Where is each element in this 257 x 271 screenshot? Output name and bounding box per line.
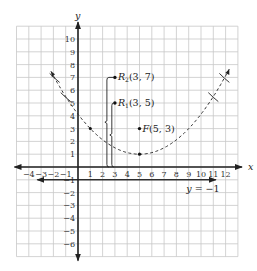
x-tick-label: 6	[149, 170, 154, 179]
y-tick-label: 1	[70, 150, 75, 159]
y-tick-label: −3	[63, 201, 75, 210]
x-tick-label: −2	[48, 170, 60, 179]
y-tick-label: 3	[70, 125, 75, 134]
x-tick-label: 3	[112, 170, 117, 179]
compass-arc-mark	[219, 73, 229, 82]
r2-label: R2(3, 7)	[117, 71, 155, 83]
y-tick-label: −2	[63, 189, 75, 198]
x-tick-label: −4	[23, 170, 35, 179]
directrix-text: y = −1	[185, 183, 219, 194]
r1-distance-brace	[110, 103, 114, 167]
f-point	[138, 127, 141, 130]
y-tick-label: −5	[63, 227, 75, 236]
x-tick-label: 2	[100, 170, 105, 179]
y-tick-label: 10	[65, 35, 75, 44]
curve-point	[89, 127, 92, 130]
grid	[17, 26, 238, 256]
parabola-figure: xy−4−3−2−112345678910111210987654321−1−2…	[0, 0, 257, 271]
y-tick-label: 8	[70, 61, 75, 70]
y-tick-label: 2	[70, 137, 75, 146]
x-tick-label: −3	[35, 170, 47, 179]
x-tick-label: 4	[125, 170, 130, 179]
y-axis-label: y	[74, 10, 81, 21]
x-tick-label: 7	[162, 170, 167, 179]
y-tick-label: 7	[70, 73, 75, 82]
x-tick-label: 8	[174, 170, 179, 179]
x-tick-label: 5	[137, 170, 142, 179]
x-axis-label: x	[248, 161, 254, 172]
x-tick-label: 12	[221, 170, 231, 179]
y-tick-label: 9	[70, 48, 75, 57]
y-tick-label: 4	[70, 112, 75, 121]
r1-label: R1(3, 5)	[117, 97, 155, 109]
r2-distance-brace	[105, 77, 114, 167]
x-tick-label: 10	[196, 170, 206, 179]
f-label: F(5, 3)	[142, 123, 175, 134]
x-tick-label: 11	[208, 170, 218, 179]
x-tick-label: 9	[186, 170, 191, 179]
compass-arc-mark	[50, 73, 60, 82]
y-tick-label: 6	[70, 86, 75, 95]
vertex-point	[138, 153, 141, 156]
x-tick-label: 1	[88, 170, 93, 179]
y-tick-label: −6	[63, 240, 75, 249]
y-tick-label: −4	[63, 214, 75, 223]
